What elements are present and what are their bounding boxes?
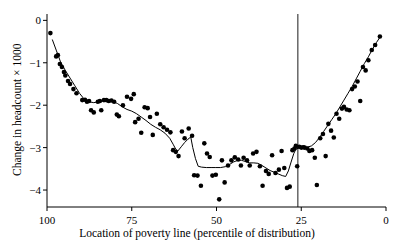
- x-axis-title: Location of poverty line (percentile of …: [0, 228, 394, 240]
- chart-plot-area: [0, 0, 394, 252]
- y-axis-title: Change in headcount × 1000: [12, 10, 24, 210]
- x-tick-label: 75: [126, 215, 137, 226]
- fitted-curve: [52, 37, 379, 176]
- x-tick-label: 100: [39, 215, 56, 226]
- scatter-points: [48, 31, 382, 202]
- x-tick-label: 25: [296, 215, 307, 226]
- x-tick-label: 50: [211, 215, 222, 226]
- x-tick-label: 0: [383, 215, 389, 226]
- chart-figure: 0−1−2−3−4 1007550250 Location of poverty…: [0, 0, 394, 252]
